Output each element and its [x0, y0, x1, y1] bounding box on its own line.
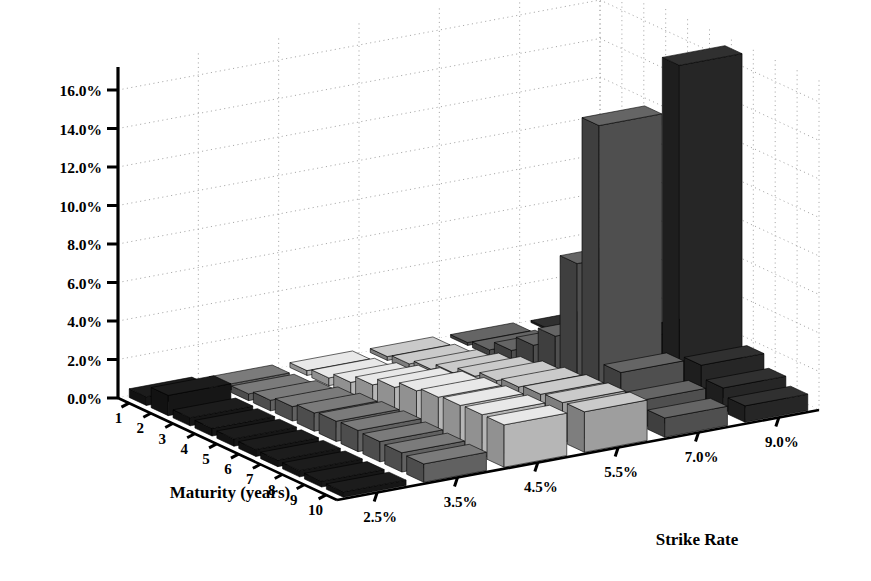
value-tick-label: 14.0%	[59, 121, 102, 138]
value-tick-label: 6.0%	[67, 275, 102, 292]
maturity-tick-label: 4	[180, 441, 188, 457]
strike-tick-label: 4.5%	[524, 479, 558, 495]
value-tick-label: 12.0%	[59, 159, 102, 176]
maturity-tick-label: 3	[159, 431, 167, 447]
strike-tick-label: 5.5%	[604, 464, 638, 480]
strike-tick-label: 2.5%	[363, 509, 397, 525]
maturity-tick-label: 5	[202, 451, 210, 467]
value-tick-label: 8.0%	[67, 236, 102, 253]
chart-container: 0.0%2.0%4.0%6.0%8.0%10.0%12.0%14.0%16.0%…	[0, 0, 871, 581]
bar	[487, 405, 567, 467]
bars-group	[129, 46, 808, 498]
maturity-tick-label: 6	[224, 461, 232, 477]
strike-axis-title: Strike Rate	[656, 530, 739, 549]
strike-tick-label: 7.0%	[685, 449, 719, 465]
value-tick-label: 4.0%	[67, 313, 102, 330]
three-d-bar-chart: 0.0%2.0%4.0%6.0%8.0%10.0%12.0%14.0%16.0%…	[0, 0, 871, 581]
maturity-tick-label: 2	[137, 420, 145, 436]
maturity-tick-label: 1	[115, 410, 123, 426]
value-tick-label: 2.0%	[67, 352, 102, 369]
strike-tick-label: 9.0%	[765, 434, 799, 450]
maturity-tick-label: 9	[290, 492, 298, 508]
bar	[662, 46, 742, 392]
strike-tick-label: 3.5%	[444, 494, 478, 510]
value-tick-label: 16.0%	[59, 82, 102, 99]
maturity-tick-label: 10	[308, 502, 323, 518]
value-tick-label: 10.0%	[59, 198, 102, 215]
value-tick-label: 0.0%	[67, 390, 102, 407]
maturity-axis-title: Maturity (years)	[170, 483, 290, 502]
